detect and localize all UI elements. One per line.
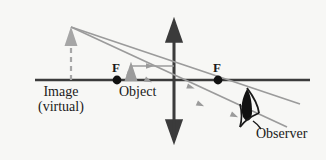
observer-label: Observer [256,126,307,141]
image-label: Image (virtual) [38,84,84,114]
lens-ray-diagram: Image (virtual) Object Observer F F [0,0,326,160]
focal-point-right-label: F [213,61,221,75]
ray-center-line [71,27,287,127]
observer-eye-icon [240,88,261,129]
image-label-line1: Image [38,84,84,99]
ray-parallel-line [71,27,300,104]
object-label: Object [119,84,156,99]
focal-point-right-dot [214,76,223,85]
focal-point-left-label: F [112,61,120,75]
image-label-line2: (virtual) [38,99,84,114]
